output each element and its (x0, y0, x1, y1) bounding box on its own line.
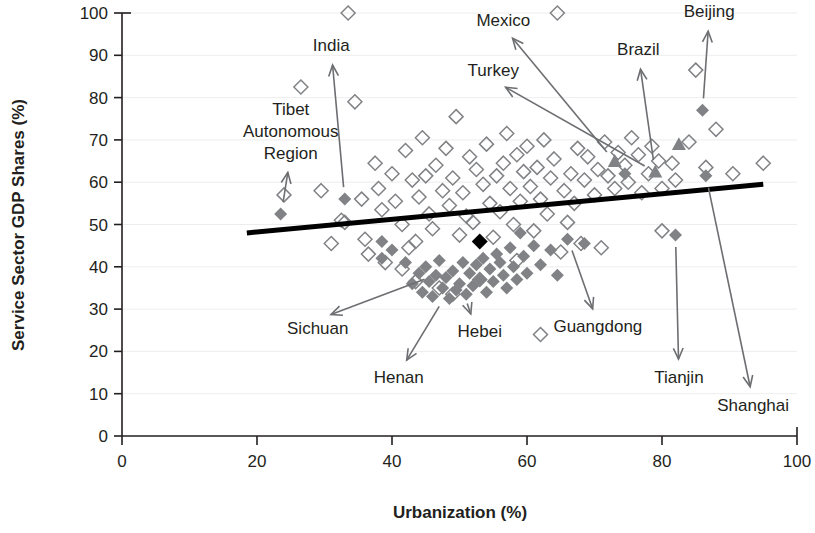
data-point-open-diamond (625, 131, 639, 145)
y-tick-label: 30 (89, 300, 108, 319)
data-point-open-diamond (561, 215, 575, 229)
annotation-leader-line (708, 188, 750, 387)
data-point-open-diamond (496, 156, 510, 170)
data-point-open-diamond (348, 95, 362, 109)
x-tick-label: 80 (653, 452, 672, 471)
data-point-open-diamond (463, 150, 477, 164)
data-point-open-diamond (665, 156, 679, 170)
x-tick-label: 40 (383, 452, 402, 471)
data-point-filled-diamond (669, 229, 682, 242)
annotation-tianjin: Tianjin (654, 247, 703, 387)
annotation-label: TibetAutonomousRegion (243, 100, 338, 163)
data-point-open-diamond (547, 152, 561, 166)
data-point-open-diamond (564, 167, 578, 181)
annotation-mexico: Mexico (476, 11, 606, 152)
annotation-label: Turkey (468, 61, 520, 80)
data-point-open-diamond (500, 127, 514, 141)
trend-line (247, 184, 763, 233)
data-point-filled-diamond (534, 258, 547, 271)
data-point-open-diamond (456, 186, 470, 200)
annotation-leader-line (703, 31, 708, 98)
annotation-brazil: Brazil (617, 40, 660, 159)
data-point-open-diamond (415, 131, 429, 145)
series-0 (277, 6, 770, 341)
data-point-open-diamond (429, 158, 443, 172)
data-point-filled-diamond (561, 233, 574, 246)
data-point-open-diamond (466, 215, 480, 229)
data-point-open-diamond (358, 232, 372, 246)
annotation-label: Guangdong (553, 317, 642, 336)
data-point-filled-diamond (507, 260, 520, 273)
data-point-open-diamond (756, 156, 770, 170)
data-point-filled-diamond (338, 193, 351, 206)
data-point-filled-diamond (483, 262, 496, 275)
data-point-open-diamond (294, 80, 308, 94)
data-point-filled-diamond (527, 239, 540, 252)
x-tick-label: 100 (783, 452, 811, 471)
annotation-beijing: Beijing (684, 2, 735, 98)
data-point-filled-diamond (375, 235, 388, 248)
data-point-filled-diamond (578, 237, 591, 250)
data-point-filled-diamond (375, 252, 388, 265)
x-axis-tick-labels: 020406080100 (117, 452, 811, 471)
data-point-open-diamond (476, 177, 490, 191)
annotation-leader-line (572, 250, 593, 308)
data-point-open-diamond (581, 150, 595, 164)
data-point-open-diamond (726, 167, 740, 181)
data-point-open-diamond (388, 194, 402, 208)
annotation-label: India (313, 36, 350, 55)
data-point-filled-diamond (699, 169, 712, 182)
data-point-open-diamond (523, 179, 537, 193)
data-point-open-diamond (361, 247, 375, 261)
data-point-open-diamond (520, 139, 534, 153)
data-point-open-diamond (368, 156, 382, 170)
annotation-henan: Henan (374, 306, 440, 387)
x-axis-title: Urbanization (%) (393, 503, 527, 522)
data-point-open-diamond (652, 154, 666, 168)
data-point-open-diamond (544, 171, 558, 185)
y-tick-label: 50 (89, 216, 108, 235)
data-point-open-diamond (490, 169, 504, 183)
annotation-india: India (313, 36, 350, 187)
data-point-open-diamond (709, 122, 723, 136)
data-point-open-diamond (449, 110, 463, 124)
data-point-national-average (472, 233, 488, 249)
annotation-label: Shanghai (717, 396, 789, 415)
annotation-leader-line (407, 306, 440, 360)
data-point-triangle (608, 154, 622, 167)
annotation-label: Beijing (684, 2, 735, 21)
data-point-open-diamond (324, 237, 338, 251)
data-point-open-diamond (399, 143, 413, 157)
data-point-open-diamond (372, 182, 386, 196)
data-point-open-diamond (655, 224, 669, 238)
data-point-open-diamond (608, 182, 622, 196)
data-point-open-diamond (453, 228, 467, 242)
data-point-open-diamond (375, 203, 389, 217)
series-1 (274, 104, 712, 305)
data-point-open-diamond (426, 222, 440, 236)
data-point-filled-diamond (510, 273, 523, 286)
data-point-open-diamond (469, 163, 483, 177)
data-point-open-diamond (554, 245, 568, 259)
data-point-open-diamond (419, 169, 433, 183)
trendline (247, 184, 763, 233)
data-point-filled-diamond (487, 275, 500, 288)
data-point-open-diamond (439, 141, 453, 155)
x-tick-label: 0 (117, 452, 126, 471)
data-point-open-diamond (517, 165, 531, 179)
data-point-filled-diamond (433, 254, 446, 267)
data-point-open-diamond (355, 192, 369, 206)
data-point-open-diamond (385, 167, 399, 181)
data-point-filled-diamond (480, 286, 493, 299)
data-point-open-diamond (571, 141, 585, 155)
annotation-label: Tianjin (654, 368, 703, 387)
data-point-filled-diamond (274, 207, 287, 220)
data-point-open-diamond (534, 327, 548, 341)
annotation-label: Mexico (476, 11, 530, 30)
data-point-open-diamond (442, 198, 456, 212)
annotation-hebei: Hebei (458, 302, 502, 341)
data-point-open-diamond (510, 148, 524, 162)
annotation-leader-line (676, 247, 679, 359)
annotation-label: Sichuan (287, 319, 348, 338)
y-tick-label: 0 (99, 427, 108, 446)
